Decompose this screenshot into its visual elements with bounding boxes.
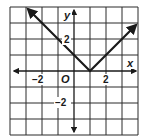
y-tick-label-neg2: −2 <box>55 97 67 108</box>
absolute-value-graph <box>28 9 136 71</box>
x-tick-label-neg2: −2 <box>32 74 44 85</box>
coordinate-graph: y x O −2 2 2 −2 <box>0 0 142 137</box>
origin-label: O <box>61 73 70 85</box>
y-axis-label: y <box>63 9 71 21</box>
x-tick-label-2: 2 <box>103 74 109 85</box>
x-axis-label: x <box>126 57 134 69</box>
y-tick-label-2: 2 <box>64 34 70 45</box>
